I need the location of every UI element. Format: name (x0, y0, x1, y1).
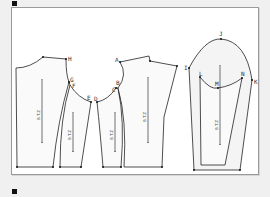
label-F: F (72, 82, 76, 89)
grain-label-back: B.T.Z (36, 110, 41, 120)
label-L: L (199, 70, 203, 77)
label-H: H (68, 55, 72, 62)
grain-label-side-back: B.T.Z (67, 130, 72, 140)
label-A: A (115, 56, 119, 63)
label-N: N (241, 70, 245, 77)
grain-label-side-front: B.T.Z (109, 130, 114, 140)
label-M: M (215, 80, 219, 87)
label-E: E (87, 94, 91, 101)
label-I: I (184, 64, 188, 71)
grain-label-front: B.T.Z (142, 112, 147, 122)
pattern-diagram: H G F E D C B A I J K L M N B.T.Z B.T.Z … (0, 0, 270, 197)
front-piece (118, 56, 177, 167)
label-D: D (94, 95, 98, 102)
label-B: B (116, 79, 120, 86)
grain-label-sleeve: B.T.Z (214, 120, 219, 130)
label-K: K (254, 78, 258, 85)
side-front-piece (97, 88, 122, 167)
label-J: J (219, 30, 223, 37)
label-C: C (112, 86, 116, 93)
